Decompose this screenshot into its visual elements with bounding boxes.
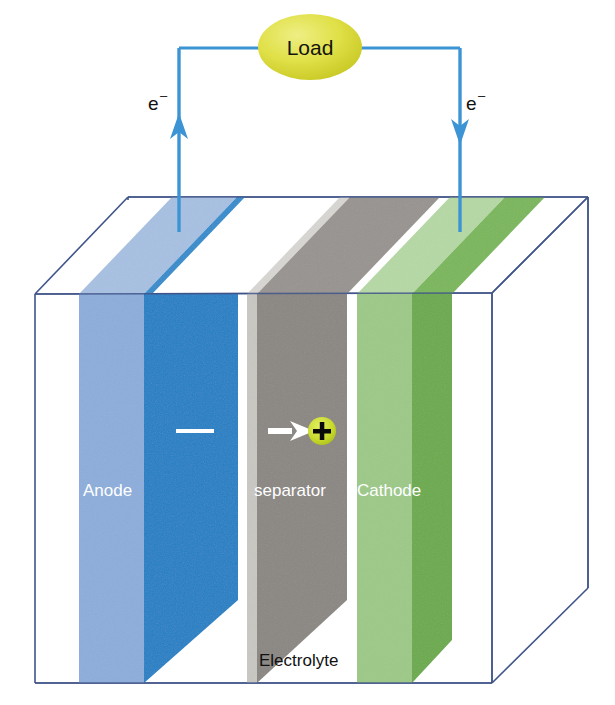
plate-cathode [357,197,545,683]
electron-label-left: e [148,93,159,114]
electron-label-left-group: e – [148,88,168,114]
electron-superscript-right: – [478,88,486,103]
separator-label: separator [254,481,326,500]
anode-label: Anode [83,481,132,500]
anode-side-face [144,294,238,683]
plate-anode [79,197,245,683]
electron-label-right: e [466,93,477,114]
box-front-top-edge-overlay [35,293,492,294]
positive-ion-icon [308,417,336,445]
box-bottom-right-diagonal [492,588,588,683]
battery-cell-diagram: Anode separator Cathode Electrolyte Load… [0,0,615,705]
electrolyte-label: Electrolyte [259,651,338,670]
load-node[interactable]: Load [258,14,362,80]
cathode-label: Cathode [357,481,421,500]
load-label: Load [287,36,334,59]
electron-superscript-left: – [160,88,168,103]
minus-sign-icon [176,429,214,433]
electron-label-right-group: e – [466,88,486,114]
